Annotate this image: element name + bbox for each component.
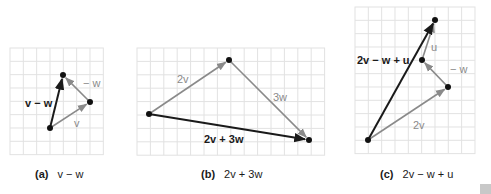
vector--w-label: − w — [450, 63, 467, 75]
caption-b: (b) 2v + 3w — [201, 168, 262, 180]
point-p1-dot — [445, 84, 451, 90]
caption-b-label: (b) — [201, 168, 215, 180]
vector-2v-w+u-label: 2v − w + u — [357, 54, 410, 66]
vectors-c: 2v− wu2v − w + u — [357, 17, 467, 143]
caption-a-expr: v − w — [58, 168, 84, 180]
vector-3w-arrow — [229, 60, 306, 137]
point-end-dot — [60, 72, 66, 78]
point-mid-dot — [226, 57, 232, 63]
point-start-dot — [47, 125, 53, 131]
caption-c: (c) 2v − w + u — [380, 168, 453, 180]
caption-a: (a) v − w — [35, 168, 84, 180]
point-mid-dot — [87, 99, 93, 105]
vector-diagram-figure: v− wv − w (a) v − w 2v3w2v + 3w (b) 2v +… — [0, 0, 491, 194]
point-end-dot — [306, 137, 312, 143]
panel-a: v− wv − w (a) v − w — [10, 48, 103, 180]
point-start-dot — [146, 111, 152, 117]
vector-2v-label: 2v — [413, 119, 425, 131]
vector-2v+3w-label: 2v + 3w — [204, 133, 244, 145]
corner-badge — [480, 184, 491, 194]
vector-3w-label: 3w — [273, 91, 287, 103]
point-p2-dot — [419, 57, 425, 63]
caption-a-label: (a) — [35, 168, 49, 180]
caption-b-expr: 2v + 3w — [224, 168, 262, 180]
panel-b: 2v3w2v + 3w (b) 2v + 3w — [137, 48, 325, 180]
panel-c: 2v− wu2v − w + u (c) 2v − w + u — [355, 7, 475, 180]
point-start-dot — [365, 137, 371, 143]
vector-2v-arrow — [368, 89, 445, 140]
caption-c-expr: 2v − w + u — [403, 168, 454, 180]
vector--w-arrow — [425, 63, 448, 87]
vector--w-label: − w — [83, 77, 100, 89]
vector-v-w-label: v − w — [25, 97, 53, 109]
point-end-dot — [432, 17, 438, 23]
vector-2v-label: 2v — [177, 73, 189, 85]
caption-c-label: (c) — [380, 168, 394, 180]
vectors-b: 2v3w2v + 3w — [146, 57, 312, 145]
vector-v-label: v — [74, 117, 80, 129]
vector-u-label: u — [431, 41, 437, 53]
